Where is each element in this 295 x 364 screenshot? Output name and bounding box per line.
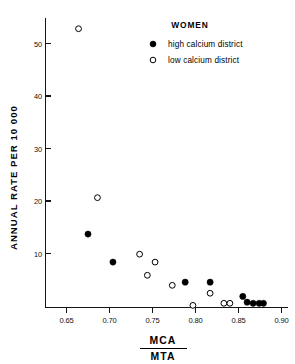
legend-label-low-calcium: low calcium district <box>168 56 240 65</box>
data-point-low-calcium <box>207 290 213 296</box>
data-point-high-calcium <box>110 259 116 265</box>
x-tick-label-075: 0.75 <box>146 316 160 325</box>
legend-marker-filled-circle <box>150 41 156 47</box>
data-point-high-calcium <box>182 279 188 285</box>
data-point-high-calcium <box>207 279 213 285</box>
data-point-low-calcium <box>76 26 82 32</box>
chart-figure: 50 40 30 20 10 0.65 0.70 0.75 0.80 0.85 … <box>0 0 295 364</box>
y-axis-ticks <box>46 44 51 254</box>
data-point-low-calcium <box>144 272 150 278</box>
y-tick-label-20: 20 <box>34 197 42 206</box>
x-tick-label-080: 0.80 <box>189 316 203 325</box>
data-point-high-calcium <box>260 300 266 306</box>
data-point-low-calcium <box>137 251 143 257</box>
y-tick-label-10: 10 <box>34 250 42 259</box>
legend: WOMEN high calcium district low calcium … <box>150 20 243 65</box>
data-point-low-calcium <box>95 195 101 201</box>
x-tick-label-085: 0.85 <box>232 316 246 325</box>
x-tick-label-065: 0.65 <box>60 316 74 325</box>
data-point-low-calcium <box>221 300 227 306</box>
data-point-high-calcium <box>250 300 256 306</box>
x-axis-title-fraction: MCA MTA <box>140 335 187 362</box>
legend-label-high-calcium: high calcium district <box>168 40 243 49</box>
data-point-high-calcium <box>240 293 246 299</box>
y-tick-label-30: 30 <box>34 145 42 154</box>
data-point-low-calcium <box>152 259 158 265</box>
x-tick-label-090: 0.90 <box>275 316 289 325</box>
data-point-high-calcium <box>85 231 91 237</box>
y-axis-title: ANNUAL RATE PER 10 000 <box>8 105 19 250</box>
data-point-low-calcium <box>190 302 196 308</box>
x-axis-denominator: MTA <box>150 351 175 362</box>
x-axis-numerator: MCA <box>150 335 177 346</box>
x-tick-label-070: 0.70 <box>103 316 117 325</box>
data-points-layer <box>76 26 267 308</box>
data-point-low-calcium <box>169 282 175 288</box>
y-tick-label-40: 40 <box>34 92 42 101</box>
legend-title: WOMEN <box>171 20 209 30</box>
scatter-plot-svg: 50 40 30 20 10 0.65 0.70 0.75 0.80 0.85 … <box>0 0 295 364</box>
data-point-high-calcium <box>244 299 250 305</box>
y-tick-label-50: 50 <box>34 40 42 49</box>
legend-marker-open-circle <box>150 57 156 63</box>
data-point-low-calcium <box>227 300 233 306</box>
x-axis-ticks <box>67 308 282 313</box>
